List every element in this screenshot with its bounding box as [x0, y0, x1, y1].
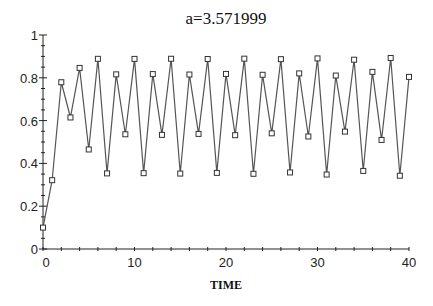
data-point-marker [150, 72, 155, 77]
data-point-marker [288, 170, 293, 175]
data-point-marker [233, 133, 238, 138]
data-point-marker [324, 172, 329, 177]
data-point-marker [370, 69, 375, 74]
x-tick-label: 30 [310, 255, 324, 270]
series-line [43, 58, 409, 228]
data-point-marker [114, 72, 119, 77]
data-point-marker [187, 72, 192, 77]
data-point-marker [68, 115, 73, 120]
data-point-marker [407, 74, 412, 79]
y-tick-label: 1 [31, 28, 38, 43]
data-point-marker [178, 171, 183, 176]
data-point-marker [214, 170, 219, 175]
data-point-marker [352, 57, 357, 62]
x-tick-label: 20 [219, 255, 233, 270]
data-point-marker [77, 65, 82, 70]
data-point-marker [342, 129, 347, 134]
data-point-marker [224, 71, 229, 76]
data-point-marker [105, 171, 110, 176]
data-point-marker [59, 80, 64, 85]
y-tick-label: 0.6 [20, 114, 38, 129]
data-point-marker [196, 131, 201, 136]
data-point-marker [41, 225, 46, 230]
data-point-marker [95, 56, 100, 61]
x-tick-label: 10 [127, 255, 141, 270]
data-point-marker [333, 73, 338, 78]
chart: a=3.571999 00.20.40.60.81010203040 TIME [0, 0, 433, 306]
data-point-marker [379, 137, 384, 142]
plot-area [41, 55, 412, 230]
data-point-marker [260, 72, 265, 77]
data-point-marker [50, 178, 55, 183]
data-point-marker [278, 57, 283, 62]
data-point-marker [269, 131, 274, 136]
y-tick-label: 0.8 [20, 71, 38, 86]
data-point-marker [361, 168, 366, 173]
y-tick-label: 0.4 [20, 156, 38, 171]
x-tick-label: 0 [42, 255, 49, 270]
data-point-marker [159, 132, 164, 137]
data-point-marker [242, 56, 247, 61]
data-point-marker [397, 173, 402, 178]
data-point-marker [306, 134, 311, 139]
data-point-marker [132, 56, 137, 61]
data-point-marker [297, 71, 302, 76]
data-point-marker [205, 56, 210, 61]
data-point-marker [251, 171, 256, 176]
data-point-marker [169, 56, 174, 61]
chart-title: a=3.571999 [186, 9, 267, 28]
data-point-marker [388, 55, 393, 60]
x-axis-label: TIME [210, 278, 242, 292]
x-tick-label: 40 [402, 255, 416, 270]
y-tick-label: 0 [31, 242, 38, 257]
y-tick-label: 0.2 [20, 199, 38, 214]
data-point-marker [141, 171, 146, 176]
data-point-marker [123, 132, 128, 137]
data-point-marker [86, 147, 91, 152]
data-point-marker [315, 56, 320, 61]
axes: 00.20.40.60.81010203040 [20, 28, 416, 270]
